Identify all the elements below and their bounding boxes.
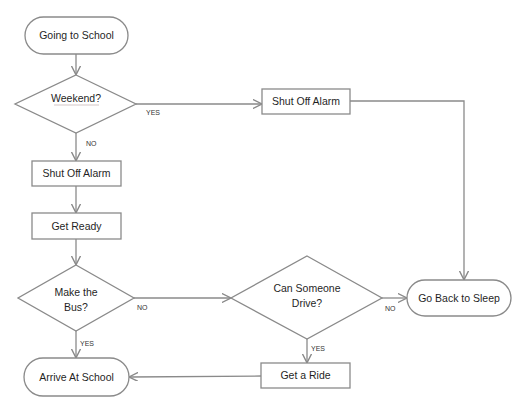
node-label-line2: Drive? xyxy=(292,297,323,309)
node-shut-off-alarm-top: Shut Off Alarm xyxy=(262,89,350,114)
node-label: Get a Ride xyxy=(280,369,330,381)
node-get-a-ride: Get a Ride xyxy=(261,363,350,388)
decision-shape xyxy=(15,75,136,133)
label-weekend-no: NO xyxy=(86,140,97,147)
node-label-line1: Can Someone xyxy=(273,282,340,294)
node-get-ready: Get Ready xyxy=(32,213,121,239)
edge-alarm-to-sleep xyxy=(350,101,464,279)
node-label-line2: Bus? xyxy=(64,301,88,313)
label-drive-no: NO xyxy=(385,305,396,312)
node-can-drive-decision: Can Someone Drive? xyxy=(231,256,382,339)
node-label: Arrive At School xyxy=(39,371,114,383)
label-drive-yes: YES xyxy=(311,345,325,352)
node-label: Going to School xyxy=(39,29,114,41)
node-label: Go Back to Sleep xyxy=(418,292,500,304)
node-go-back-to-sleep-terminal: Go Back to Sleep xyxy=(407,280,511,316)
label-bus-yes: YES xyxy=(80,340,94,347)
node-label: Shut Off Alarm xyxy=(42,167,110,179)
node-arrive-terminal: Arrive At School xyxy=(24,358,129,396)
node-label: Shut Off Alarm xyxy=(272,95,340,107)
node-label-line1: Make the xyxy=(54,286,97,298)
node-shut-off-alarm-left: Shut Off Alarm xyxy=(32,161,121,186)
flowchart-canvas: YES NO NO YES NO YES Going to School Wee… xyxy=(0,0,526,412)
node-label: Weekend? xyxy=(51,92,101,104)
node-weekend-decision: Weekend? xyxy=(15,75,136,133)
node-make-bus-decision: Make the Bus? xyxy=(18,265,134,331)
label-weekend-yes: YES xyxy=(146,109,160,116)
label-bus-no: NO xyxy=(137,304,148,311)
node-start-terminal: Going to School xyxy=(25,17,128,54)
edge-ride-to-arrive xyxy=(130,376,261,377)
decision-shape xyxy=(18,265,134,331)
node-label: Get Ready xyxy=(51,220,102,232)
